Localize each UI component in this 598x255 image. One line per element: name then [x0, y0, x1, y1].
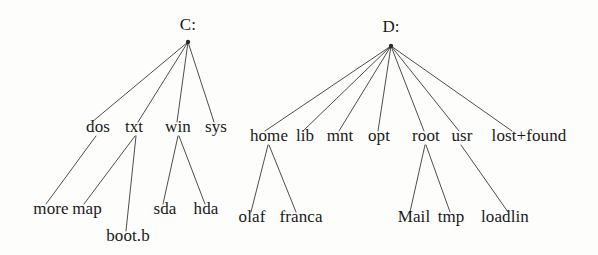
- tree-node-label-home: home: [250, 126, 288, 145]
- tree-edge-c-root-to-dos: [92, 42, 188, 122]
- tree-node-label-sys: sys: [205, 117, 227, 136]
- tree-edge-d-root-to-opt: [378, 46, 391, 131]
- tree-node-label-lib: lib: [296, 126, 314, 145]
- tree-node-label-root: root: [412, 126, 440, 145]
- tree-edge-c-txt-to-map: [84, 136, 135, 204]
- tree-leaf-label-franca: franca: [279, 207, 322, 226]
- tree-edge-d-root-to-lostfound: [391, 46, 512, 131]
- tree-node-label-lost-found: lost+found: [492, 126, 567, 145]
- tree-edge-c-txt-to-bootb: [126, 136, 136, 231]
- tree-edge-c-win-to-sda: [163, 136, 178, 204]
- tree-node-label-txt: txt: [125, 117, 143, 136]
- tree-node-dots: [186, 40, 393, 48]
- tree-edge-d-home-to-franca: [269, 145, 296, 212]
- tree-edge-c-win-to-hda: [179, 136, 205, 204]
- tree-edge-c-root-to-win: [177, 42, 188, 122]
- tree-edge-d-home-to-olaf: [251, 145, 268, 212]
- tree-root-label-d: D:: [382, 17, 399, 36]
- tree-leaf-label-sda: sda: [154, 199, 177, 218]
- tree-edge-c-root-to-sys: [188, 42, 214, 122]
- tree-leaf-label-olaf: olaf: [239, 207, 266, 226]
- tree-leaf-label-more: more: [33, 199, 68, 218]
- tree-node-label-dos: dos: [86, 117, 110, 136]
- tree-root-label-c: C:: [180, 15, 196, 34]
- tree-edge-d-usr-to-loadlin: [461, 145, 508, 212]
- tree-root-node-c-drive: [186, 40, 190, 44]
- tree-edge-d-root-to-usr: [391, 46, 459, 131]
- tree-edge-d-root-dir-to-mail: [410, 145, 425, 212]
- tree-leaf-label-boot-b: boot.b: [106, 226, 150, 245]
- tree-edge-d-root-to-home: [265, 46, 391, 131]
- tree-node-label-mnt: mnt: [327, 126, 354, 145]
- tree-leaf-label-tmp: tmp: [438, 207, 465, 226]
- tree-root-node-d-drive: [389, 44, 393, 48]
- tree-leaf-label-map: map: [72, 199, 102, 218]
- tree-edge-c-dos-to-more: [46, 136, 96, 204]
- tree-edge-c-root-to-txt: [138, 42, 188, 122]
- tree-edge-d-root-dir-to-tmp: [426, 145, 450, 212]
- tree-node-label-opt: opt: [368, 126, 390, 145]
- tree-node-label-usr: usr: [451, 126, 472, 145]
- tree-leaf-label-hda: hda: [194, 199, 219, 218]
- tree-canvas: C:dostxtwinsysmoremapboot.bsdahdaD:homel…: [0, 0, 598, 255]
- tree-labels: C:dostxtwinsysmoremapboot.bsdahdaD:homel…: [33, 15, 566, 245]
- filesystem-tree-diagram: C:dostxtwinsysmoremapboot.bsdahdaD:homel…: [0, 0, 598, 255]
- tree-leaf-label-loadlin: loadlin: [481, 207, 529, 226]
- tree-leaf-label-mail: Mail: [398, 207, 431, 226]
- tree-edge-d-root-to-root: [391, 46, 424, 131]
- tree-node-label-win: win: [165, 117, 191, 136]
